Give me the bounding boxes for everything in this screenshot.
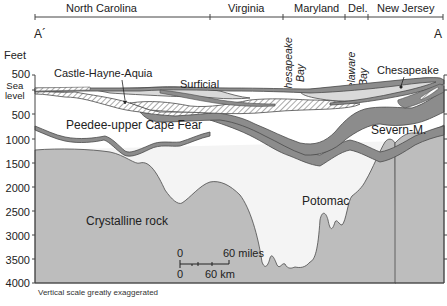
footnote: Vertical scale greatly exaggerated xyxy=(38,288,158,297)
castle-hayne-aquia-label: Castle-Hayne-Aquia xyxy=(54,67,152,79)
y-axis xyxy=(32,75,35,283)
scale-miles-start: 0 xyxy=(177,247,183,259)
cross-section-diagram xyxy=(0,0,447,306)
severn-magothy-label: Severn-M. xyxy=(371,123,426,137)
scale-km-start: 0 xyxy=(177,268,183,280)
surface-hatched-strip xyxy=(35,87,90,91)
chesapeake-label: Chesapeake xyxy=(377,64,439,76)
potomac-label: Potomac xyxy=(302,194,349,208)
state-boundary-bar xyxy=(35,14,443,20)
peedee-upper-cape-fear-label: Peedee-upper Cape Fear xyxy=(66,118,202,132)
scale-miles-end: 60 miles xyxy=(223,247,264,259)
scale-km-end: 60 km xyxy=(205,268,235,280)
surficial-label: Surficial xyxy=(180,78,219,90)
crystalline-rock-label: Crystalline rock xyxy=(86,214,168,228)
